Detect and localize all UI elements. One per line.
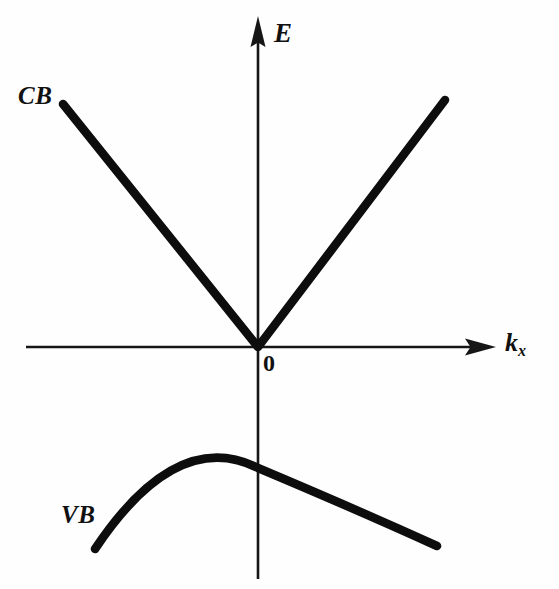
energy-axis-arrowhead <box>251 16 266 47</box>
energy-axis-label: E <box>274 18 292 49</box>
valence-band-label: VB <box>61 501 95 529</box>
conduction-band-label: CB <box>18 82 52 110</box>
wavevector-axis-label: kx <box>505 328 526 360</box>
wavevector-axis-label-base: k <box>505 328 518 357</box>
origin-label: 0 <box>263 350 275 377</box>
wavevector-axis-label-subscript: x <box>518 342 526 359</box>
valence-band-curve <box>95 458 437 549</box>
conduction-band-curve <box>63 100 445 347</box>
band-structure-figure: CB VB E kx 0 <box>0 0 559 589</box>
